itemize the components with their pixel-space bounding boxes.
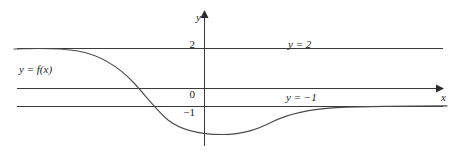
function-curve [14, 48, 447, 134]
function-graph-figure: y x 2 0 −1 y = f(x) y = 2 y = −1 [0, 0, 455, 154]
curve-label: y = f(x) [19, 64, 52, 75]
y-tick-label-2: 2 [181, 39, 195, 50]
plot-canvas [0, 0, 455, 154]
asymptote-label-lower: y = −1 [286, 92, 317, 103]
y-axis-label: y [196, 12, 201, 23]
asymptote-label-upper: y = 2 [288, 39, 311, 50]
y-axis-arrowhead-icon [201, 10, 209, 18]
x-axis-label: x [441, 92, 446, 103]
y-tick-label-minus-1: −1 [178, 107, 195, 118]
y-tick-label-0: 0 [181, 89, 195, 100]
